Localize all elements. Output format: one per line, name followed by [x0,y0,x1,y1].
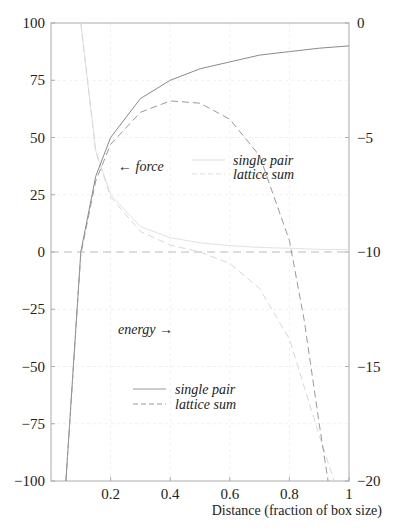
left-tick-label: 100 [23,15,46,31]
right-tick-label: −20 [357,473,380,489]
x-axis-label: Distance (fraction of box size) [212,503,383,519]
energy-annotation: energy → [118,322,173,337]
left-tick-label: 50 [30,130,45,146]
right-tick-label: −15 [357,359,380,375]
right-tick-label: 0 [357,15,365,31]
force-annotation: ← force [118,159,164,174]
right-tick-label: −10 [357,244,380,260]
x-tick-label: 0.6 [220,486,239,502]
left-tick-label: −75 [22,416,45,432]
left-tick-label: −50 [22,359,45,375]
energy-single-pair-line [66,46,349,481]
force-legend-single-pair: single pair [233,153,294,168]
left-tick-label: 75 [30,72,45,88]
left-tick-label: −100 [14,473,45,489]
right-axis-ticks: 0−5−10−15−20 [345,15,380,489]
x-tick-label: 0.8 [280,486,299,502]
left-tick-label: 0 [38,244,46,260]
left-tick-label: 25 [30,187,45,203]
x-tick-label: 0.2 [101,486,120,502]
x-tick-label: 0.4 [161,486,180,502]
right-tick-label: −5 [357,130,373,146]
left-tick-label: −25 [22,301,45,317]
energy-legend-single-pair: single pair [175,382,236,397]
energy-legend-lattice-sum: lattice sum [175,397,236,412]
force-legend-lattice-sum: lattice sum [233,167,294,182]
force-energy-chart: 1007550250−25−50−75−100 0−5−10−15−20 0.2… [0,0,397,532]
left-axis-ticks: 1007550250−25−50−75−100 [14,15,55,489]
force-single-pair-line [81,23,349,250]
x-tick-label: 1 [345,486,353,502]
